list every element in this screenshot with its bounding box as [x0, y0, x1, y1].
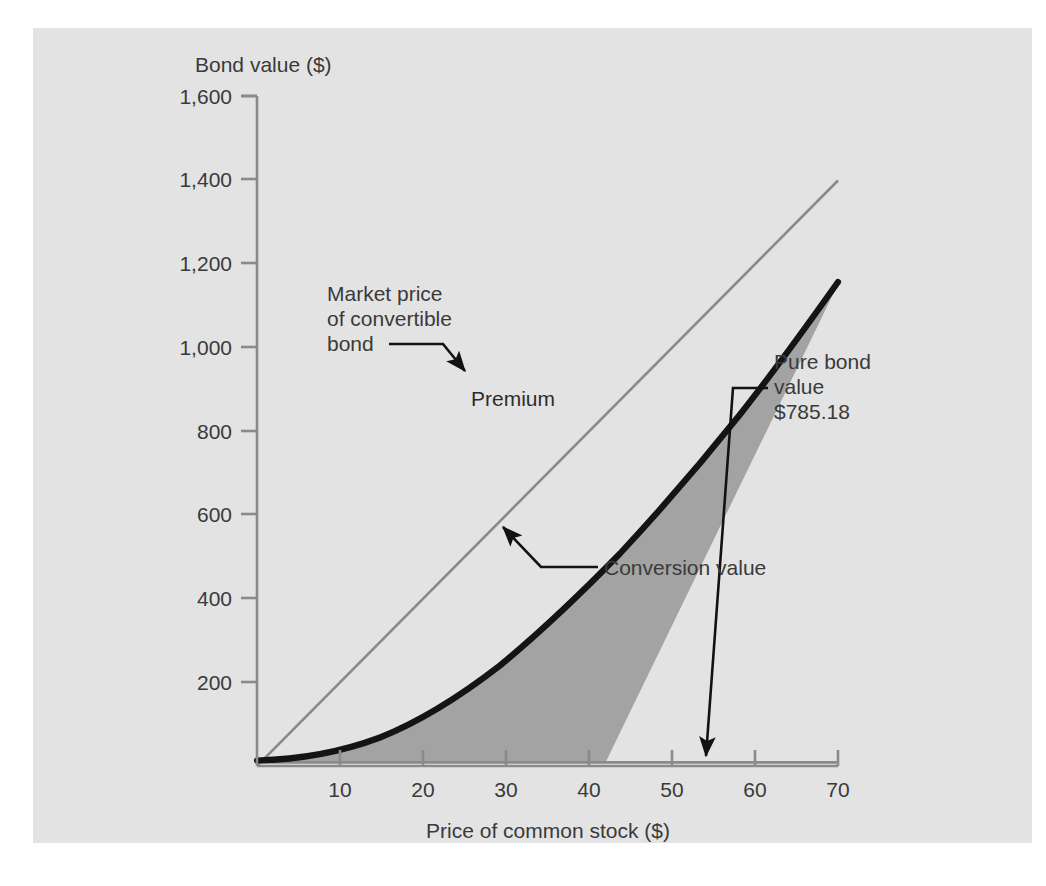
y-axis-ticks [241, 96, 257, 682]
figure-root: 1,600 1,400 1,200 1,000 800 600 400 200 … [0, 0, 1046, 886]
y-tick-label-600: 600 [197, 503, 232, 526]
market-price-annotation-line-2: of convertible [327, 307, 452, 330]
pure-bond-annotation-line-2: value [774, 375, 824, 398]
x-tick-label-70: 70 [826, 778, 849, 801]
pure-bond-annotation-line-3: $785.18 [774, 400, 850, 423]
x-tick-label-30: 30 [494, 778, 517, 801]
market-price-annotation: Market price of convertible bond [327, 282, 465, 371]
x-tick-label-50: 50 [660, 778, 683, 801]
pure-bond-annotation-line-1: Pure bond [774, 350, 871, 373]
conversion-value-annotation-label: Conversion value [604, 556, 766, 579]
convertible-bond-chart: 1,600 1,400 1,200 1,000 800 600 400 200 … [0, 0, 1046, 886]
pure-bond-annotation: Pure bond value $785.18 [706, 350, 871, 756]
y-tick-label-200: 200 [197, 671, 232, 694]
premium-region-label: Premium [471, 387, 555, 410]
premium-shaded-region [257, 284, 838, 762]
market-price-annotation-line-3: bond [327, 332, 374, 355]
x-tick-label-20: 20 [411, 778, 434, 801]
y-tick-label-800: 800 [197, 420, 232, 443]
y-tick-label-1200: 1,200 [179, 252, 232, 275]
x-axis-title: Price of common stock ($) [426, 819, 670, 842]
y-axis-title: Bond value ($) [195, 53, 332, 76]
x-tick-label-10: 10 [328, 778, 351, 801]
y-tick-label-400: 400 [197, 587, 232, 610]
y-tick-label-1000: 1,000 [179, 336, 232, 359]
conversion-value-annotation-leader [503, 527, 598, 567]
market-price-annotation-line-1: Market price [327, 282, 443, 305]
x-tick-label-60: 60 [743, 778, 766, 801]
market-price-annotation-leader [389, 344, 465, 371]
y-tick-label-1600: 1,600 [179, 85, 232, 108]
y-tick-label-1400: 1,400 [179, 168, 232, 191]
x-tick-label-40: 40 [577, 778, 600, 801]
